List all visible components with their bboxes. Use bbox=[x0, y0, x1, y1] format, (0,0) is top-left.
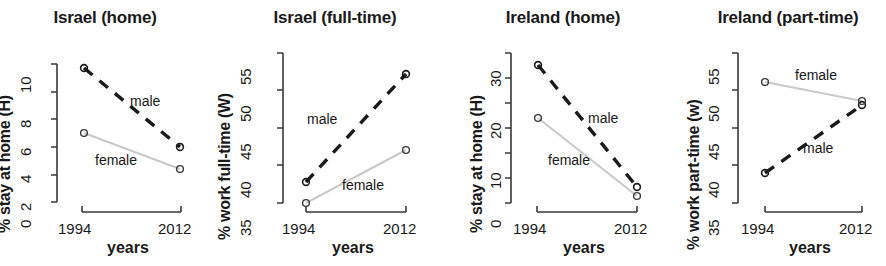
series-label-male: male bbox=[307, 111, 337, 127]
panel-ireland-parttime: Ireland (part-time) % work part-time (w)… bbox=[664, 0, 886, 266]
series-line-male bbox=[765, 105, 862, 173]
multi-panel-line-chart-figure: Israel (home) % stay at home (H) 10 8 6 … bbox=[0, 0, 886, 266]
series-label-female: female bbox=[95, 152, 137, 168]
series-label-male: male bbox=[130, 93, 160, 109]
x-axis bbox=[306, 206, 406, 212]
panel-ireland-home: Ireland (home) % stay at home (H) 30 20 … bbox=[442, 0, 664, 266]
series-line-male bbox=[306, 74, 406, 182]
y-axis bbox=[505, 53, 511, 203]
y-axis bbox=[277, 53, 283, 203]
panel-israel-fulltime: Israel (full-time) % work full-time (W) … bbox=[220, 0, 442, 266]
x-axis-label: years bbox=[789, 239, 831, 257]
x-tick-label: 1994 bbox=[741, 220, 774, 237]
x-tick-label: 2012 bbox=[614, 220, 647, 237]
y-axis bbox=[51, 64, 57, 202]
series-line-male bbox=[538, 65, 637, 187]
series-label-female: female bbox=[795, 67, 837, 83]
x-axis bbox=[765, 206, 862, 212]
x-axis-label: years bbox=[332, 239, 374, 257]
series-label-male: male bbox=[803, 140, 833, 156]
x-axis bbox=[537, 206, 637, 212]
x-tick-label: 2012 bbox=[158, 220, 191, 237]
series-line-female bbox=[765, 82, 862, 101]
series-label-male: male bbox=[588, 110, 618, 126]
y-axis bbox=[732, 53, 738, 203]
x-tick-label: 1994 bbox=[282, 220, 315, 237]
series-label-female: female bbox=[342, 177, 384, 193]
x-axis-label: years bbox=[107, 239, 149, 257]
x-tick-label: 2012 bbox=[839, 220, 872, 237]
x-axis-label: years bbox=[563, 239, 605, 257]
x-axis bbox=[82, 206, 181, 212]
series-label-female: female bbox=[548, 152, 590, 168]
panel-israel-home: Israel (home) % stay at home (H) 10 8 6 … bbox=[0, 0, 220, 266]
x-tick-label: 2012 bbox=[383, 220, 416, 237]
x-tick-label: 1994 bbox=[513, 220, 546, 237]
x-tick-label: 1994 bbox=[58, 220, 91, 237]
